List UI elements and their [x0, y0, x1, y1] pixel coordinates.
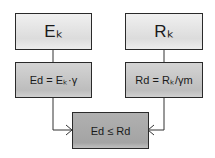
node-ed: Ed = Eₖ·γ	[15, 62, 92, 98]
node-rd: Rd = Rₖ/γm	[125, 62, 203, 98]
edge-ed-check	[53, 97, 72, 130]
node-rd-label: Rd = Rₖ/γm	[135, 74, 192, 87]
node-ed-label: Ed = Eₖ·γ	[30, 74, 78, 87]
node-ek-label: Eₖ	[44, 21, 62, 42]
node-rk: Rₖ	[125, 13, 203, 50]
node-check-label: Ed ≤ Rd	[91, 125, 131, 137]
edge-rd-check	[148, 97, 164, 130]
node-ek: Eₖ	[15, 13, 92, 50]
node-check: Ed ≤ Rd	[72, 112, 149, 149]
node-rk-label: Rₖ	[154, 21, 173, 42]
